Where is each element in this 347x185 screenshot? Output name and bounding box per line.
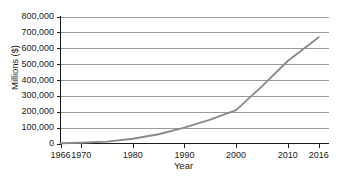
x-axis-tick-label: 1980 bbox=[123, 151, 143, 160]
x-axis-tick-labels: 1966197019801990200020102016 bbox=[0, 0, 347, 185]
line-chart-figure: Millions ($) 0100,000200,000300,000400,0… bbox=[0, 0, 347, 185]
x-axis-tick-label: 2016 bbox=[309, 151, 329, 160]
x-axis-tick-label: 1970 bbox=[71, 151, 91, 160]
x-axis-tick-label: 2000 bbox=[226, 151, 246, 160]
x-axis-tick-label: 1990 bbox=[174, 151, 194, 160]
x-axis-tick-label: 1966 bbox=[50, 151, 70, 160]
x-axis-tick-label: 2010 bbox=[278, 151, 298, 160]
x-axis-title: Year bbox=[56, 160, 311, 171]
